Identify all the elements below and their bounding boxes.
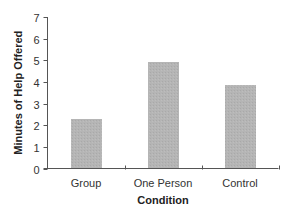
y-tick-label: 3 xyxy=(33,99,39,111)
x-axis-labels: GroupOne PersonControl xyxy=(71,177,258,189)
bar-one-person xyxy=(148,62,179,168)
bar-chart: 01234567 GroupOne PersonControl Conditio… xyxy=(0,0,292,214)
bars xyxy=(71,62,256,169)
y-tick-label: 1 xyxy=(33,142,39,154)
x-axis-title: Condition xyxy=(137,194,189,206)
bar-group xyxy=(71,119,102,169)
y-tick-label: 5 xyxy=(33,55,39,67)
y-tick-label: 2 xyxy=(33,120,39,132)
y-tick-label: 6 xyxy=(33,34,39,46)
y-axis-title: Minutes of Help Offered xyxy=(12,31,24,155)
y-tick-label: 7 xyxy=(33,12,39,24)
y-tick-label: 0 xyxy=(33,164,39,176)
x-tick-label: Control xyxy=(222,177,257,189)
x-tick-label: One Person xyxy=(134,177,193,189)
bar-control xyxy=(225,85,256,168)
y-axis-ticks: 01234567 xyxy=(33,12,47,176)
y-tick-label: 4 xyxy=(33,77,39,89)
x-tick-label: Group xyxy=(71,177,102,189)
